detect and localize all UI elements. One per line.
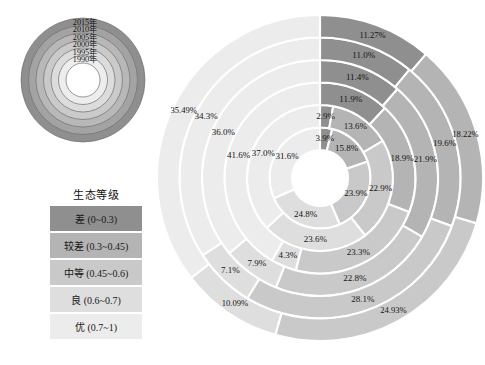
legend-rows: 差 (0~0.3)较差 (0.3~0.45)中等 (0.45~0.6)良 (0.… — [50, 206, 142, 339]
year-label-1990年: 1990年 — [73, 54, 97, 64]
sunburst-label-2015年-较差 (0.3~0.45): 18.22% — [452, 129, 479, 139]
sunburst-label-1995年-中等 (0.45~0.6): 22.9% — [369, 183, 393, 193]
sunburst-label-2015年-差 (0~0.3): 11.27% — [360, 30, 386, 40]
legend-item-0: 差 (0~0.3) — [50, 206, 142, 231]
sunburst-label-1990年-中等 (0.45~0.6): 23.9% — [344, 188, 368, 198]
sunburst-label-2000年-较差 (0.3~0.45): 18.9% — [390, 153, 414, 163]
sunburst-label-1990年-良 (0.6~0.7): 24.8% — [294, 209, 318, 219]
sunburst-label-1995年-较差 (0.3~0.45): 13.6% — [344, 121, 368, 131]
sunburst-label-2010年-较差 (0.3~0.45): 19.6% — [433, 138, 457, 148]
legend-item-3: 良 (0.6~0.7) — [50, 287, 142, 312]
legend-item-1: 较差 (0.3~0.45) — [50, 233, 142, 258]
sunburst-svg: 3.9%15.8%23.9%24.8%31.6%2.9%13.6%22.9%23… — [155, 8, 485, 360]
sunburst-label-2005年-优 (0.7~1): 36.0% — [212, 127, 236, 137]
sunburst-chart: 3.9%15.8%23.9%24.8%31.6%2.9%13.6%22.9%23… — [155, 8, 485, 360]
year-ring-key: 2015年2010年2005年2000年1995年1990年 — [17, 14, 149, 146]
legend-item-label: 差 (0~0.3) — [75, 211, 117, 226]
sunburst-label-1995年-良 (0.6~0.7): 23.6% — [304, 234, 328, 244]
sunburst-label-2010年-优 (0.7~1): 34.3% — [195, 111, 219, 121]
sunburst-label-1990年-较差 (0.3~0.45): 15.8% — [335, 143, 359, 153]
legend: 生态等级 差 (0~0.3)较差 (0.3~0.45)中等 (0.45~0.6)… — [50, 186, 142, 341]
sunburst-label-2000年-中等 (0.45~0.6): 23.3% — [347, 247, 371, 257]
year-ring-center — [66, 63, 100, 97]
sunburst-label-2005年-较差 (0.3~0.45): 21.9% — [414, 154, 438, 164]
legend-item-label: 良 (0.6~0.7) — [71, 292, 121, 307]
legend-item-label: 中等 (0.45~0.6) — [64, 265, 129, 280]
figure-root: 2015年2010年2005年2000年1995年1990年 生态等级 差 (0… — [0, 0, 485, 365]
sunburst-label-1995年-优 (0.7~1): 37.0% — [252, 148, 276, 158]
sunburst-label-2000年-良 (0.6~0.7): 4.3% — [278, 250, 297, 260]
sunburst-label-1990年-优 (0.7~1): 31.6% — [276, 151, 300, 161]
sunburst-label-2015年-中等 (0.45~0.6): 24.93% — [380, 305, 407, 315]
sunburst-label-2010年-良 (0.6~0.7): 7.1% — [221, 265, 240, 275]
sunburst-label-2015年-良 (0.6~0.7): 10.09% — [222, 298, 249, 308]
sunburst-label-2000年-差 (0~0.3): 11.9% — [339, 94, 362, 104]
legend-item-label: 优 (0.7~1) — [75, 319, 117, 334]
legend-item-label: 较差 (0.3~0.45) — [64, 238, 129, 253]
sunburst-label-1995年-差 (0~0.3): 2.9% — [316, 111, 335, 121]
sunburst-label-2010年-中等 (0.45~0.6): 28.1% — [351, 294, 375, 304]
year-ring-key-svg: 2015年2010年2005年2000年1995年1990年 — [17, 14, 149, 146]
sunburst-center-hole — [292, 150, 348, 206]
sunburst-label-2005年-中等 (0.45~0.6): 22.8% — [343, 273, 367, 283]
legend-item-2: 中等 (0.45~0.6) — [50, 260, 142, 285]
sunburst-label-2015年-优 (0.7~1): 35.49% — [170, 105, 197, 115]
legend-title: 生态等级 — [50, 186, 142, 202]
sunburst-label-2000年-优 (0.7~1): 41.6% — [227, 150, 251, 160]
sunburst-label-2010年-差 (0~0.3): 11.0% — [352, 50, 375, 60]
sunburst-label-1990年-差 (0~0.3): 3.9% — [315, 133, 334, 143]
sunburst-label-2005年-良 (0.6~0.7): 7.9% — [248, 258, 267, 268]
legend-item-4: 优 (0.7~1) — [50, 314, 142, 339]
sunburst-label-2005年-差 (0~0.3): 11.4% — [346, 72, 369, 82]
